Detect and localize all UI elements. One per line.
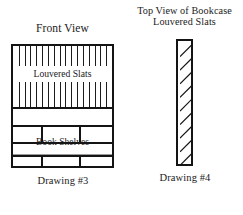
bookcase-front-elevation: Louvered Slats Book Shelves (11, 44, 114, 168)
louvered-slats-label: Louvered Slats (13, 67, 112, 81)
drawing-4-caption: Drawing #4 (130, 172, 240, 183)
shelf-line-middle (13, 155, 112, 157)
top-view-title: Top View of Bookcase Louvered Slats (126, 5, 243, 27)
shelf-divider-lower-left (41, 155, 43, 166)
shelf-divider-lower-right (79, 155, 81, 166)
top-view-title-line-1: Top View of Bookcase (137, 5, 232, 16)
hatch-pattern (178, 41, 193, 166)
louvered-slats-panel: Louvered Slats (13, 46, 112, 109)
front-view-title: Front View (0, 22, 125, 34)
top-rail-band (13, 109, 112, 127)
top-view-title-line-2: Louvered Slats (126, 16, 243, 27)
book-shelves-label: Book Shelves (13, 136, 112, 148)
drawing-3-caption: Drawing #3 (8, 175, 118, 186)
louvered-slat-section-hatched (176, 39, 193, 166)
book-shelves-region: Book Shelves (13, 127, 112, 166)
